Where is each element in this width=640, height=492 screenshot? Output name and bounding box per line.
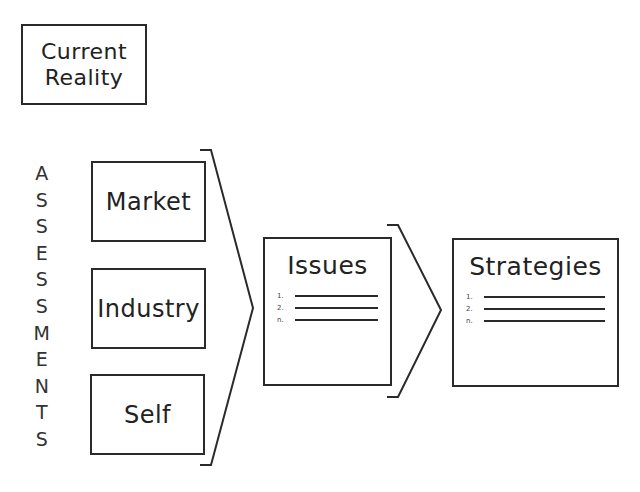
assessments-letter: A [35,160,49,187]
assessments-letter: T [36,399,48,426]
market-box: Market [91,161,206,242]
issues-bracket-arrow [387,225,441,397]
list-item: 1. [277,290,380,302]
list-item-number: 2. [466,305,484,313]
list-item: 1. [466,291,607,303]
assessments-bracket-arrow [200,150,253,465]
strategies-box: Strategies 1. 2. n. [452,238,619,387]
blank-line [295,307,378,309]
list-item: n. [466,315,607,327]
market-label: Market [106,188,192,216]
issues-title: Issues [287,251,368,280]
issues-list: 1. 2. n. [265,290,390,326]
assessments-letter: N [35,373,50,400]
list-item: 2. [277,302,380,314]
self-box: Self [90,374,205,455]
issues-box: Issues 1. 2. n. [263,237,392,386]
list-item-number: n. [466,317,484,325]
assessments-letter: E [36,346,49,373]
strategies-title: Strategies [469,252,602,281]
assessments-vertical-label: A S S E S S M E N T S [32,160,52,453]
assessments-letter: E [36,240,49,267]
assessments-letter: M [34,320,51,347]
self-label: Self [124,401,171,429]
strategies-list: 1. 2. n. [454,291,617,327]
blank-line [484,320,605,322]
current-reality-box: Current Reality [21,24,147,105]
current-reality-line2: Reality [45,65,124,91]
list-item-number: 2. [277,304,295,312]
list-item-number: 1. [466,293,484,301]
blank-line [295,295,378,297]
blank-line [484,296,605,298]
list-item-number: n. [277,316,295,324]
assessments-letter: S [36,426,49,453]
assessments-letter: S [36,213,49,240]
list-item: 2. [466,303,607,315]
list-item: n. [277,314,380,326]
list-item-number: 1. [277,292,295,300]
assessments-letter: S [36,187,49,214]
industry-label: Industry [97,295,200,323]
blank-line [484,308,605,310]
assessments-letter: S [36,293,49,320]
assessments-letter: S [36,266,49,293]
industry-box: Industry [91,268,206,349]
current-reality-line1: Current [41,39,127,65]
blank-line [295,319,378,321]
